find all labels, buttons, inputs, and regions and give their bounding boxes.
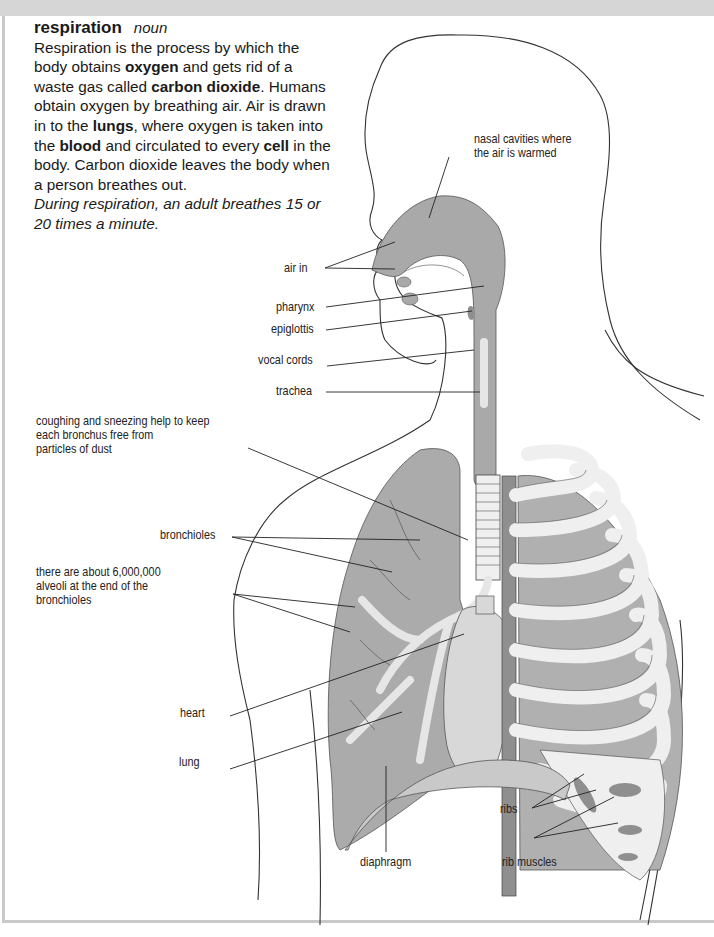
- trachea-shape: [476, 475, 500, 580]
- label-trachea: trachea: [276, 384, 312, 398]
- label-pharynx: pharynx: [276, 300, 315, 314]
- label-vocal-cords: vocal cords: [258, 353, 313, 367]
- label-alveoli: there are about 6,000,000 alveoli at the…: [36, 565, 161, 607]
- label-lung: lung: [179, 755, 199, 769]
- label-ribs: ribs: [500, 802, 517, 816]
- label-coughing-sneezing: coughing and sneezing help to keep each …: [36, 414, 209, 456]
- example-sentence: During respiration, an adult breathes 15…: [34, 194, 334, 233]
- dictionary-entry: respirationnoun Respiration is the proce…: [34, 18, 334, 234]
- label-line: coughing and sneezing help to keep: [36, 414, 209, 428]
- keyword-lungs: lungs: [93, 117, 134, 134]
- label-air-in: air in: [284, 261, 307, 275]
- headword: respiration: [34, 18, 122, 37]
- definition-text: and circulated to every: [101, 137, 263, 154]
- definition: Respiration is the process by which the …: [34, 38, 334, 195]
- label-line: there are about 6,000,000: [36, 565, 161, 579]
- label-nasal-cavities: nasal cavities where the air is warmed: [474, 132, 572, 160]
- label-line: particles of dust: [36, 442, 209, 456]
- keyword-carbon-dioxide: carbon dioxide: [151, 78, 260, 95]
- keyword-blood: blood: [60, 137, 102, 154]
- entry-heading: respirationnoun: [34, 18, 334, 38]
- label-heart: heart: [180, 706, 205, 720]
- label-rib-muscles: rib muscles: [502, 855, 557, 869]
- label-epiglottis: epiglottis: [271, 322, 314, 336]
- label-bronchioles: bronchioles: [160, 528, 215, 542]
- label-line: nasal cavities where: [474, 132, 572, 146]
- keyword-oxygen: oxygen: [125, 58, 179, 75]
- label-line: alveoli at the end of the: [36, 579, 161, 593]
- part-of-speech: noun: [134, 19, 167, 36]
- label-line: each bronchus free from: [36, 428, 209, 442]
- label-line: the air is warmed: [474, 146, 572, 160]
- label-diaphragm: diaphragm: [360, 855, 411, 869]
- keyword-cell: cell: [264, 137, 290, 154]
- label-line: bronchioles: [36, 593, 161, 607]
